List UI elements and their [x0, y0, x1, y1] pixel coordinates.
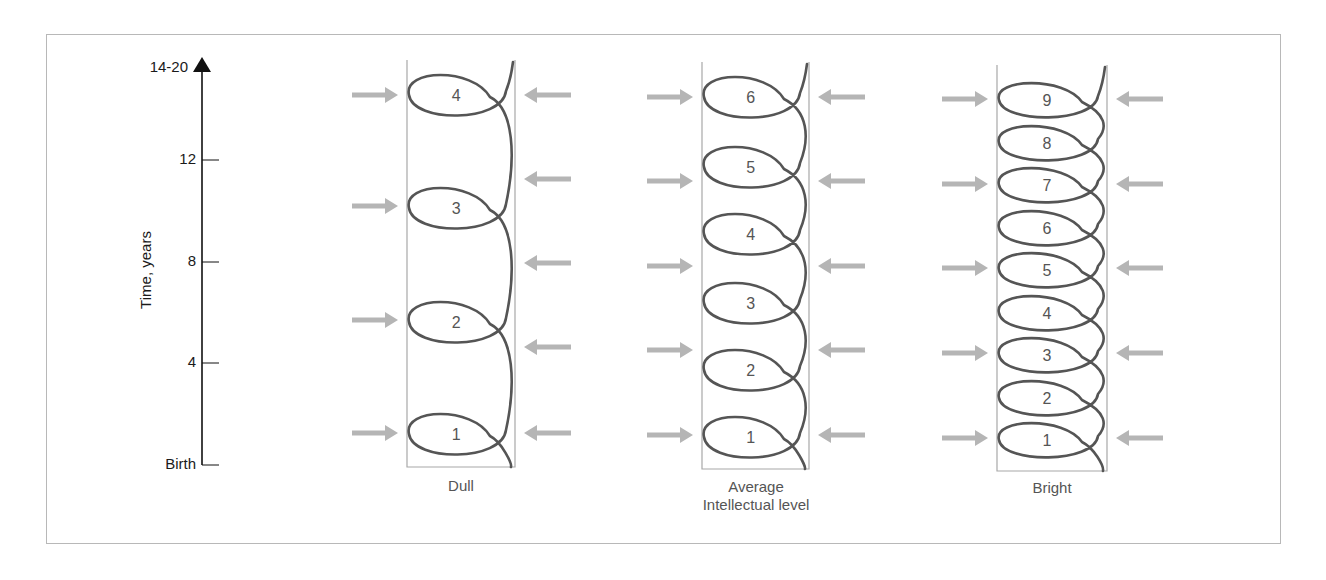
- loop-number: 4: [746, 226, 755, 243]
- loop-number: 4: [1042, 305, 1051, 322]
- arrow-left-icon: [1116, 345, 1163, 361]
- spirals: [409, 62, 1105, 471]
- arrow-left-icon: [1116, 260, 1163, 276]
- spiral-dull: [409, 62, 513, 467]
- arrow-left-icon: [818, 258, 865, 274]
- arrow-left-icon: [524, 339, 571, 355]
- arrow-right-icon: [942, 176, 988, 192]
- arrow-right-icon: [942, 91, 988, 107]
- column-label-text: Bright: [1032, 479, 1071, 496]
- column-box-average: [702, 62, 809, 469]
- loop-number: 1: [746, 429, 755, 446]
- column-label-bright: Bright: [952, 479, 1152, 497]
- column-label-text: Average: [656, 478, 856, 496]
- y-tick-label: Birth: [136, 455, 196, 472]
- loop-number: 6: [746, 89, 755, 106]
- spiral-bright: [999, 67, 1105, 471]
- arrow-left-icon: [524, 425, 571, 441]
- arrow-left-icon: [1116, 176, 1163, 192]
- arrow-right-icon: [942, 430, 988, 446]
- arrow-right-icon: [647, 89, 693, 105]
- loop-number: 3: [1042, 347, 1051, 364]
- arrow-left-icon: [818, 173, 865, 189]
- arrow-right-icon: [352, 425, 398, 441]
- arrow-right-icon: [352, 87, 398, 103]
- arrow-left-icon: [524, 171, 571, 187]
- y-tick-label: 8: [136, 252, 196, 269]
- loop-number: 2: [746, 362, 755, 379]
- arrow-right-icon: [647, 427, 693, 443]
- loop-number: 2: [452, 314, 461, 331]
- column-label-text: Dull: [448, 477, 474, 494]
- arrow-left-icon: [1116, 430, 1163, 446]
- arrow-left-icon: [524, 87, 571, 103]
- arrow-right-icon: [647, 258, 693, 274]
- arrow-right-icon: [942, 260, 988, 276]
- arrow-left-icon: [818, 89, 865, 105]
- loop-number: 3: [746, 295, 755, 312]
- arrow-left-icon: [524, 255, 571, 271]
- loop-number: 5: [1042, 262, 1051, 279]
- arrow-left-icon: [818, 427, 865, 443]
- loop-number: 6: [1042, 220, 1051, 237]
- arrow-right-icon: [352, 312, 398, 328]
- loop-number: 1: [1042, 432, 1051, 449]
- loop-number: 9: [1042, 92, 1051, 109]
- loop-number: 7: [1042, 177, 1051, 194]
- axis-arrowhead-icon: [193, 57, 211, 72]
- loop-number: 3: [452, 200, 461, 217]
- loop-number: 8: [1042, 135, 1051, 152]
- arrow-right-icon: [942, 345, 988, 361]
- arrows: [352, 87, 1163, 446]
- time-axis: [193, 57, 219, 465]
- loop-number: 2: [1042, 390, 1051, 407]
- column-label-dull: Dull: [361, 477, 561, 495]
- column-label-average: Average Intellectual level: [656, 478, 856, 514]
- loop-number: 1: [452, 426, 461, 443]
- y-tick-label: 14-20: [128, 58, 188, 75]
- y-tick-label: 12: [136, 150, 196, 167]
- loop-number: 5: [746, 159, 755, 176]
- arrow-right-icon: [647, 342, 693, 358]
- loop-number: 4: [452, 87, 461, 104]
- arrow-right-icon: [647, 173, 693, 189]
- arrow-left-icon: [1116, 91, 1163, 107]
- arrow-right-icon: [352, 198, 398, 214]
- arrow-left-icon: [818, 342, 865, 358]
- y-tick-label: 4: [136, 353, 196, 370]
- column-label-subtext: Intellectual level: [656, 496, 856, 514]
- column-box-dull: [407, 60, 515, 467]
- spiral-average: [704, 64, 807, 469]
- y-axis-title: Time, years: [137, 231, 154, 309]
